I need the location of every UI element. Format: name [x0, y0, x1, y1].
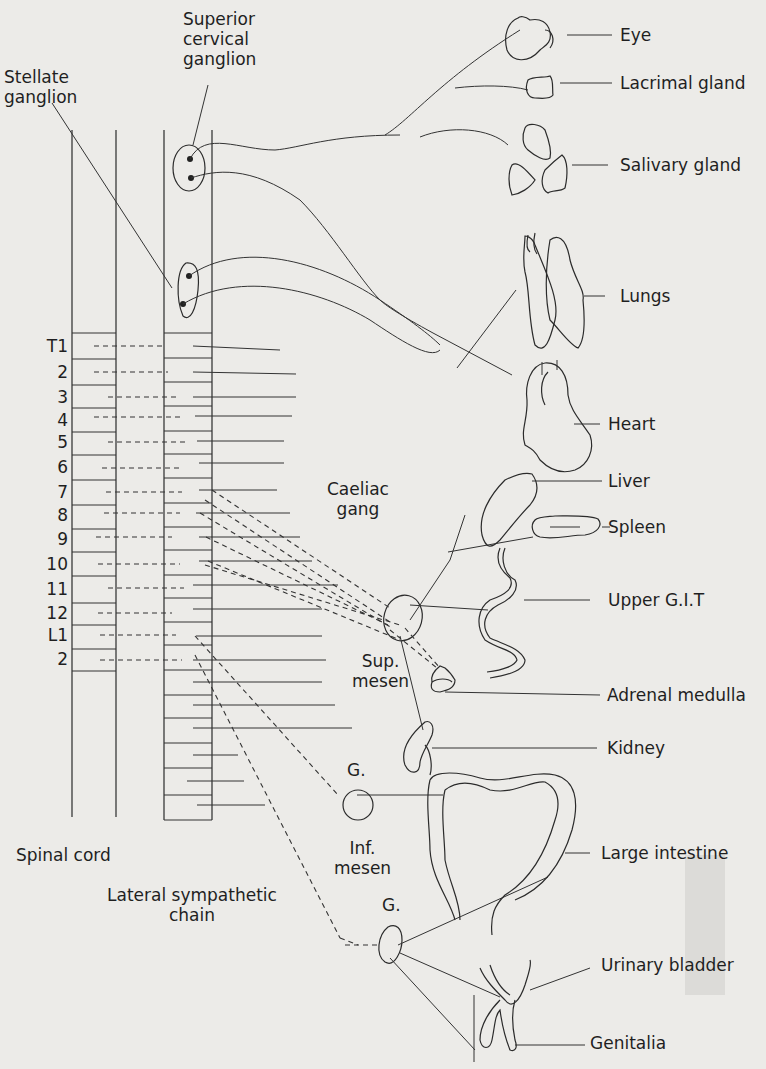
- label-lateral-sympathetic-chain: Lateral sympathetic chain: [107, 885, 277, 925]
- label-lungs: Lungs: [620, 286, 670, 306]
- salivary-organ: [509, 124, 608, 195]
- label-stellate-ganglion: Stellate ganglion: [4, 67, 77, 107]
- segment-label: 6: [28, 458, 68, 476]
- label-large-intestine: Large intestine: [601, 843, 728, 863]
- label-heart: Heart: [608, 414, 655, 434]
- segment-label: 7: [28, 483, 68, 501]
- segment-label: 2: [28, 363, 68, 381]
- lower-g-ganglion: [379, 877, 548, 1050]
- label-g-lower: G.: [382, 895, 401, 915]
- lacrimal-organ: [526, 76, 612, 98]
- segment-label: 2: [28, 650, 68, 668]
- upper-git-organ: [479, 548, 590, 678]
- spinal-cord: [72, 130, 116, 817]
- genitalia-organ: [474, 995, 585, 1062]
- caeliac-ganglion: [200, 490, 533, 730]
- segment-label: 8: [28, 506, 68, 524]
- eye-organ: [506, 17, 612, 60]
- label-liver: Liver: [608, 471, 650, 491]
- urinary-bladder-organ: [480, 960, 590, 1004]
- lungs-organ: [524, 233, 605, 348]
- stellate-ganglion: [52, 103, 440, 353]
- segment-label: 3: [28, 388, 68, 406]
- label-caeliac-gang: Caeliac gang: [327, 479, 389, 519]
- label-lacrimal-gland: Lacrimal gland: [620, 73, 746, 93]
- superior-cervical-ganglion: [173, 85, 400, 300]
- large-intestine-organ: [428, 773, 590, 935]
- label-salivary-gland: Salivary gland: [620, 155, 741, 175]
- label-spleen: Spleen: [608, 517, 666, 537]
- spleen-organ: [532, 516, 610, 538]
- segment-label: 5: [28, 433, 68, 451]
- segment-label: 12: [28, 604, 68, 622]
- kidney-organ: [404, 722, 597, 775]
- label-sup-mesen: Sup. mesen: [352, 651, 409, 691]
- label-upper-git: Upper G.I.T: [608, 590, 704, 610]
- segment-label: L1: [28, 626, 68, 644]
- segment-label: 11: [28, 580, 68, 598]
- label-inf-mesen: Inf. mesen: [334, 838, 391, 878]
- label-g-upper: G.: [347, 760, 366, 780]
- cranial-fibers: [380, 30, 528, 375]
- lateral-sympathetic-chain: [164, 130, 212, 820]
- adrenal-organ: [431, 666, 600, 695]
- segment-label: 10: [28, 555, 68, 573]
- label-genitalia: Genitalia: [590, 1033, 666, 1053]
- segment-label: 9: [28, 530, 68, 548]
- segment-label: 4: [28, 411, 68, 429]
- label-spinal-cord: Spinal cord: [16, 845, 111, 865]
- label-adrenal-medulla: Adrenal medulla: [607, 685, 746, 705]
- label-kidney: Kidney: [607, 738, 665, 758]
- label-urinary-bladder: Urinary bladder: [601, 955, 734, 975]
- segment-label: T1: [28, 337, 68, 355]
- heart-organ: [523, 360, 600, 472]
- label-superior-cervical-ganglion: Superior cervical ganglion: [183, 9, 256, 69]
- label-eye: Eye: [620, 25, 651, 45]
